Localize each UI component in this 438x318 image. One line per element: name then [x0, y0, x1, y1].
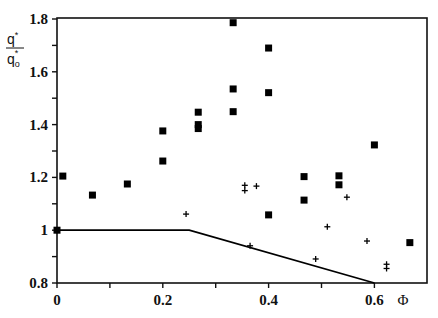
square-marker	[265, 45, 272, 52]
y-tick-label: 1	[41, 222, 49, 238]
x-tick-label: 0.6	[365, 292, 384, 308]
square-marker	[301, 173, 308, 180]
y-axis: 0.811.21.41.61.8	[29, 11, 57, 291]
plus-marker	[324, 224, 330, 230]
x-axis: 00.20.40.6	[53, 283, 384, 308]
y-tick-label: 1.4	[29, 117, 48, 133]
plus-marker	[183, 211, 189, 217]
square-marker	[265, 89, 272, 96]
square-marker	[124, 181, 131, 188]
square-marker	[230, 108, 237, 115]
square-marker	[335, 172, 342, 179]
y-tick-label: 1.6	[29, 64, 48, 80]
plus-marker	[384, 265, 390, 271]
square-marker	[265, 211, 272, 218]
square-marker	[371, 141, 378, 148]
square-marker	[335, 181, 342, 188]
x-tick-label: 0.4	[259, 292, 278, 308]
plus-marker	[253, 183, 259, 189]
series-squares	[54, 19, 414, 246]
square-marker	[195, 125, 202, 132]
y-tick-label: 1.2	[29, 169, 48, 185]
scatter-chart: 0.811.21.41.61.8 00.20.40.6 q* qo* Φ	[0, 0, 438, 318]
plus-marker	[242, 188, 248, 194]
square-marker	[406, 239, 413, 246]
y-tick-label: 0.8	[29, 275, 48, 291]
plus-marker	[364, 238, 370, 244]
square-marker	[159, 127, 166, 134]
x-tick-label: 0.2	[153, 292, 172, 308]
y-tick-label: 1.8	[29, 11, 48, 27]
square-marker	[301, 197, 308, 204]
x-axis-title: Φ	[398, 292, 409, 308]
plus-marker	[344, 194, 350, 200]
y-axis-title: q* qo*	[6, 30, 24, 69]
y-axis-numerator: q*	[7, 30, 19, 47]
data-series	[54, 19, 414, 283]
plot-frame	[57, 18, 427, 283]
series-boundary-line	[57, 230, 374, 283]
square-marker	[59, 173, 66, 180]
square-marker	[195, 109, 202, 116]
y-axis-denominator: qo*	[7, 48, 20, 69]
x-tick-label: 0	[53, 292, 61, 308]
square-marker	[230, 19, 237, 26]
square-marker	[159, 158, 166, 165]
plus-marker	[313, 256, 319, 262]
square-marker	[89, 192, 96, 199]
plus-marker	[242, 182, 248, 188]
square-marker	[230, 85, 237, 92]
boundary-line	[57, 230, 374, 283]
